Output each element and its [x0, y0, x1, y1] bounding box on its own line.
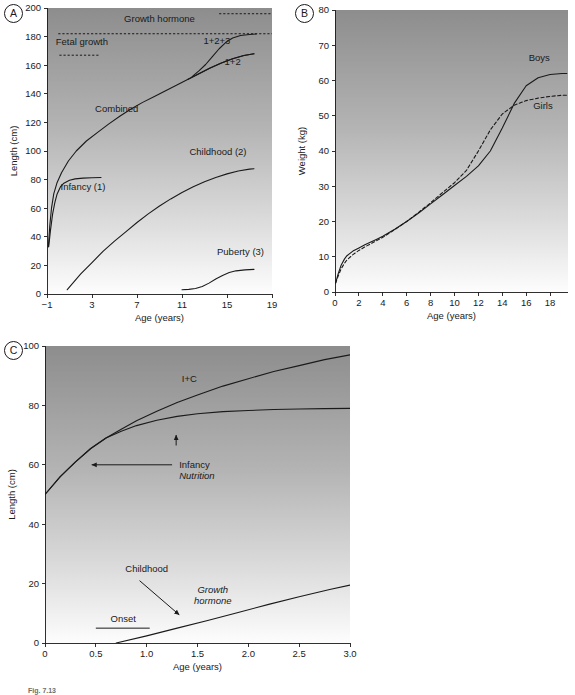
panel-a-ytick-8: 160 [25, 60, 41, 71]
panel-b-xtick-4: 8 [428, 297, 433, 308]
panel-c-ytick-3: 60 [28, 459, 39, 470]
panel-b-xtick-2: 4 [380, 297, 385, 308]
panel-c-plot: 02040608010000.51.01.52.02.53.0Age (year… [0, 338, 380, 688]
panel-a-series-label-3: Combined [95, 103, 138, 114]
panel-c-xtick-4: 2.0 [242, 648, 255, 659]
panel-b-ytick-7: 70 [318, 40, 329, 51]
panel-a-xtick-4: 15 [222, 299, 233, 310]
panel-a-plot: 020406080100120140160180200−137111519Age… [0, 0, 285, 330]
panel-b-xtick-3: 6 [404, 297, 409, 308]
panel-c-ytick-2: 40 [28, 519, 39, 530]
panel-c-annotation-infancy-nutrition-label: Infancy [179, 459, 210, 470]
panel-b-xtick-6: 12 [473, 297, 484, 308]
panel-b-series-label-0: Boys [529, 52, 550, 63]
panel-b: B 01020304050607080024681012141618Age (y… [288, 0, 575, 330]
panel-c-ytick-4: 80 [28, 400, 39, 411]
panel-c-annotation-growth-hormone-italic-label-2: hormone [194, 595, 232, 606]
panel-c-annotation-onset-label: Onset [111, 613, 137, 624]
panel-b-xtick-5: 10 [449, 297, 460, 308]
panel-b-ytick-4: 40 [318, 145, 329, 156]
panel-c-series-label-0: I+C [182, 373, 197, 384]
panel-a-series-label-0: Infancy (1) [61, 181, 106, 192]
panel-c-xaxis-title: Age (years) [173, 661, 222, 672]
panel-a-ytick-5: 100 [25, 145, 41, 156]
panel-a-xtick-5: 19 [267, 299, 278, 310]
panel-a-series-label-4: 1+2+3 [203, 35, 230, 46]
panel-b-ytick-6: 60 [318, 75, 329, 86]
panel-b-xtick-1: 2 [356, 297, 361, 308]
panel-a-xtick-3: 11 [177, 299, 187, 310]
panel-b-xtick-0: 0 [332, 297, 337, 308]
panel-c-ytick-5: 100 [23, 340, 39, 351]
panel-a-ytick-9: 180 [25, 31, 41, 42]
panel-b-ytick-8: 80 [318, 4, 329, 15]
panel-a-series-label-5: 1+2 [225, 56, 241, 67]
growth-figure: A 020406080100120140160180200−137111519A… [0, 0, 575, 695]
figure-caption: Fig. 7.13 [28, 686, 548, 695]
panel-a-ytick-4: 80 [30, 174, 41, 185]
panel-a-ytick-6: 120 [25, 117, 41, 128]
panel-a-ytick-0: 0 [36, 288, 41, 299]
panel-c-xtick-2: 1.0 [140, 648, 153, 659]
panel-a-annotation-growth-hormone-label: Growth hormone [124, 13, 195, 24]
panel-b-series-label-1: Girls [533, 100, 553, 111]
panel-c-xtick-5: 2.5 [293, 648, 306, 659]
panel-b-ytick-2: 20 [318, 216, 329, 227]
panel-a-series-label-2: Puberty (3) [217, 246, 264, 257]
panel-b-yaxis-title: Weight (kg) [296, 127, 307, 175]
panel-c-ytick-0: 0 [34, 637, 39, 648]
panel-a-xtick-1: 3 [89, 299, 94, 310]
panel-a-ytick-1: 20 [30, 260, 41, 271]
panel-a-annotation-sex-steroids-label: Sex steroids [215, 0, 268, 10]
panel-a-xtick-0: −1 [42, 299, 53, 310]
panel-c-xtick-1: 0.5 [89, 648, 102, 659]
panel-b-ytick-1: 10 [318, 251, 329, 262]
panel-c-xtick-6: 3.0 [343, 648, 356, 659]
panel-a: A 020406080100120140160180200−137111519A… [0, 0, 285, 330]
panel-a-annotation-fetal-growth-label: Fetal growth [56, 36, 108, 47]
panel-a-ytick-10: 200 [25, 2, 41, 13]
panel-a-ytick-2: 40 [30, 231, 41, 242]
panel-c-annotation-growth-hormone-italic-label: Growth [197, 584, 228, 595]
panel-c-annotation-childhood-arrow-label: Childhood [125, 563, 168, 574]
panel-a-ytick-3: 60 [30, 203, 41, 214]
panel-c-xtick-3: 1.5 [191, 648, 204, 659]
panel-b-xtick-8: 16 [521, 297, 532, 308]
panel-b-ytick-0: 0 [324, 286, 329, 297]
panel-b-ytick-5: 50 [318, 110, 329, 121]
panel-a-series-label-1: Childhood (2) [189, 146, 246, 157]
panel-a-xtick-2: 7 [134, 299, 139, 310]
panel-a-yaxis-title: Length (cm) [8, 126, 19, 177]
panel-a-xaxis-title: Age (years) [135, 312, 184, 323]
panel-b-xtick-7: 14 [497, 297, 508, 308]
panel-b-xtick-9: 18 [545, 297, 556, 308]
caption-figure-number: Fig. 7.13 [28, 687, 56, 694]
panel-a-ytick-7: 140 [25, 88, 41, 99]
panel-c-ytick-1: 20 [28, 578, 39, 589]
panel-c-annotation-infancy-nutrition-label-2: Nutrition [179, 470, 214, 481]
panel-c-xtick-0: 0 [42, 648, 47, 659]
panel-b-xaxis-title: Age (years) [427, 310, 476, 321]
panel-b-plot: 01020304050607080024681012141618Age (yea… [288, 0, 575, 330]
panel-c: C 02040608010000.51.01.52.02.53.0Age (ye… [0, 338, 380, 688]
panel-c-yaxis-title: Length (cm) [6, 469, 17, 520]
panel-b-ytick-3: 30 [318, 181, 329, 192]
